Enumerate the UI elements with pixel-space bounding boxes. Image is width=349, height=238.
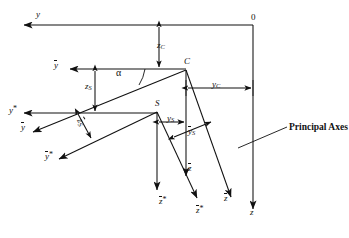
annotation-leader-line	[238, 127, 287, 148]
point-label-s: S	[155, 99, 160, 108]
axis-label-z-text: z	[250, 207, 254, 217]
dimension-label-zc-sub: C	[161, 43, 165, 50]
axis-label-z-star: z*	[159, 196, 167, 206]
axis-label-z-bar-principal: z	[224, 194, 228, 203]
dimension-label-yc: yC	[212, 80, 220, 90]
star-glyph: *	[49, 150, 53, 159]
axis-label-z-bar-text: z	[188, 164, 192, 173]
axis-label-y-bar-text: y	[54, 61, 58, 70]
dimension-label-ys-bar: yS	[188, 127, 195, 137]
diagram-canvas	[0, 0, 349, 238]
axis-y-bar-star-line	[59, 112, 157, 159]
axis-label-y-bar-rotated-text: y	[21, 123, 25, 132]
point-label-c: C	[184, 57, 190, 66]
axis-label-z-bar-star-text: z	[196, 206, 200, 215]
principal-axes-diagram: 0 C S y y y* y y* z z z z* z* zC	[0, 0, 349, 238]
dimension-label-ys-bar-sub: S	[192, 129, 195, 136]
axis-y-bar-rotated-line	[33, 70, 186, 132]
star-glyph: *	[163, 195, 167, 204]
dimension-label-ys-bar-base: y	[188, 127, 192, 136]
axis-label-z-star-text: z	[159, 197, 163, 206]
axis-label-z: z	[250, 208, 254, 217]
axis-label-z-bar: z	[188, 164, 192, 173]
angle-label-alpha: α	[116, 68, 121, 78]
dimension-label-zc: zC	[157, 41, 165, 51]
dimension-label-yc-sub: C	[216, 82, 220, 89]
star-glyph: *	[13, 104, 17, 113]
dimension-label-ys-sub: S	[171, 116, 174, 123]
point-label-origin: 0	[251, 13, 256, 22]
star-glyph: *	[200, 204, 204, 213]
dimension-label-zs-sub: S	[89, 84, 92, 91]
axis-label-y-text: y	[36, 9, 40, 19]
axis-label-z-bar-star: z*	[196, 205, 204, 215]
axis-label-y: y	[36, 10, 40, 19]
axis-label-y-star: y*	[9, 105, 17, 115]
angle-alpha-arc	[139, 69, 145, 85]
dimension-label-ys: yS	[167, 114, 174, 124]
axis-label-y-bar-star: y*	[45, 151, 53, 161]
axis-label-y-bar-star-text: y	[45, 152, 49, 161]
annotation-principal-axes: Principal Axes	[289, 122, 348, 132]
axis-label-y-bar: y	[54, 61, 58, 70]
axis-label-z-bar-principal-text: z	[224, 194, 228, 203]
axis-label-y-bar-rotated: y	[21, 123, 25, 132]
dimension-label-zs: zS	[85, 82, 92, 92]
